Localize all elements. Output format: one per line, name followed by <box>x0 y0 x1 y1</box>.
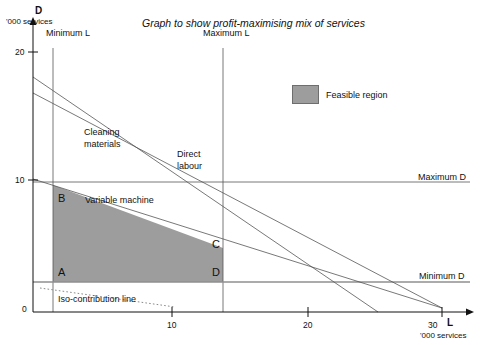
constraint-label-minimum-l: Minimum L <box>46 29 90 38</box>
constraint-label-maximum-d-var: D <box>460 172 467 182</box>
x-axis-arrow <box>466 309 474 316</box>
constraint-label-minimum-d: Minimum D <box>419 272 465 281</box>
chart-canvas: D '000 services 20 10 0 10 20 30 L '000 … <box>0 0 488 345</box>
constraint-label-cleaning-materials-line2: materials <box>84 140 121 149</box>
iso-contribution-label: Iso-contribution line <box>58 295 136 304</box>
vertex-label-d: D <box>212 266 220 278</box>
vertex-label-c: C <box>212 238 220 250</box>
constraint-label-minimum-d-var: D <box>458 271 465 281</box>
constraint-label-variable-machine: Variable machine <box>85 196 154 205</box>
constraint-label-maximum-d: Maximum D <box>418 173 466 182</box>
constraint-label-maximum-l-var: L <box>245 28 250 38</box>
legend-label-feasible-region: Feasible region <box>326 90 388 100</box>
y-axis-name: D <box>35 5 42 16</box>
constraint-label-direct-labour-line1: Direct <box>177 150 201 159</box>
y-axis-unit: '000 services <box>6 17 52 26</box>
constraint-label-maximum-l-text: Maximum <box>203 28 242 38</box>
constraint-label-direct-labour-line2: labour <box>177 162 202 171</box>
constraint-label-maximum-l: Maximum L <box>203 29 250 38</box>
x-tick-label-10: 10 <box>167 320 176 330</box>
legend-swatch-feasible-region <box>292 85 319 104</box>
constraint-label-minimum-l-text: Minimum <box>46 28 83 38</box>
vertex-label-a: A <box>58 266 65 278</box>
vertex-label-b: B <box>58 192 65 204</box>
x-axis-unit: '000 services <box>420 331 466 340</box>
y-tick-label-10: 10 <box>15 175 24 185</box>
y-tick-label-20: 20 <box>15 47 24 57</box>
x-tick-label-20: 20 <box>303 320 312 330</box>
x-axis-name: L <box>447 317 453 328</box>
chart-title: Graph to show profit-maximising mix of s… <box>142 17 365 29</box>
constraint-label-cleaning-materials-line1: Cleaning <box>84 128 120 137</box>
y-tick-label-0: 0 <box>22 304 27 314</box>
constraint-label-maximum-d-text: Maximum <box>418 172 457 182</box>
constraint-label-minimum-d-text: Minimum <box>419 271 456 281</box>
constraint-label-minimum-l-var: L <box>85 28 90 38</box>
x-tick-label-30: 30 <box>428 320 437 330</box>
